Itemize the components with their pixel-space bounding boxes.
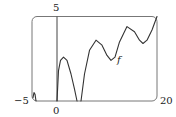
curve-label-f: f [117,55,121,65]
x-origin-tick-label: 0 [53,106,59,116]
y-max-tick-label: 5 [53,3,59,13]
curve-f [33,17,157,102]
x-max-tick-label: 20 [160,96,173,106]
x-min-tick-label: −5 [14,96,29,106]
plot-frame [32,17,157,102]
